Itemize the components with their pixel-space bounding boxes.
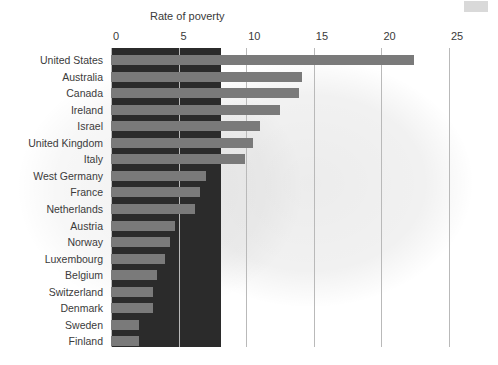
bar — [111, 121, 260, 131]
bar — [111, 336, 139, 346]
bar — [111, 105, 280, 115]
bar — [111, 171, 206, 181]
category-label: Finland — [0, 333, 103, 349]
bar — [111, 187, 200, 197]
bar-row: Finland — [0, 333, 498, 349]
x-tick-25: 25 — [451, 30, 463, 42]
category-label: Israel — [0, 118, 103, 134]
category-label: Australia — [0, 69, 103, 85]
bar-row: Canada — [0, 85, 498, 101]
bar-row: Austria — [0, 218, 498, 234]
x-tick-15: 15 — [316, 30, 328, 42]
category-label: France — [0, 184, 103, 200]
chart-figure: Rate of poverty 0510152025 United States… — [0, 0, 498, 365]
bar-row: United Kingdom — [0, 135, 498, 151]
category-label: United States — [0, 52, 103, 68]
bar — [111, 254, 165, 264]
chart-title: Rate of poverty — [150, 10, 225, 22]
bar-row: Denmark — [0, 300, 498, 316]
category-label: Sweden — [0, 317, 103, 333]
bar — [111, 88, 299, 98]
category-label: Norway — [0, 234, 103, 250]
bar — [111, 221, 175, 231]
bar-row: Switzerland — [0, 284, 498, 300]
bar-row: Sweden — [0, 317, 498, 333]
bar-row: Italy — [0, 151, 498, 167]
bar — [111, 72, 302, 82]
x-tick-20: 20 — [383, 30, 395, 42]
corner-tab-decoration — [464, 1, 488, 12]
category-label: Italy — [0, 151, 103, 167]
bar — [111, 320, 139, 330]
bar — [111, 154, 245, 164]
bar-row: Israel — [0, 118, 498, 134]
bar — [111, 303, 153, 313]
bar-row: West Germany — [0, 168, 498, 184]
category-label: West Germany — [0, 168, 103, 184]
x-tick-5: 5 — [181, 30, 187, 42]
bar-row: France — [0, 184, 498, 200]
category-label: Austria — [0, 218, 103, 234]
category-label: Ireland — [0, 102, 103, 118]
x-tick-0: 0 — [113, 30, 119, 42]
bar — [111, 204, 195, 214]
bar-row: Belgium — [0, 267, 498, 283]
bar-row: Ireland — [0, 102, 498, 118]
bar-row: Netherlands — [0, 201, 498, 217]
bar-row: Luxembourg — [0, 251, 498, 267]
category-label: Luxembourg — [0, 251, 103, 267]
bar-row: Norway — [0, 234, 498, 250]
bar — [111, 270, 157, 280]
category-label: Netherlands — [0, 201, 103, 217]
bar — [111, 138, 253, 148]
x-tick-10: 10 — [248, 30, 260, 42]
bar-row: Australia — [0, 69, 498, 85]
bar — [111, 287, 153, 297]
category-label: Canada — [0, 85, 103, 101]
category-label: United Kingdom — [0, 135, 103, 151]
category-label: Belgium — [0, 267, 103, 283]
bar — [111, 237, 170, 247]
category-label: Switzerland — [0, 284, 103, 300]
category-label: Denmark — [0, 300, 103, 316]
bar — [111, 55, 414, 65]
bar-row: United States — [0, 52, 498, 68]
